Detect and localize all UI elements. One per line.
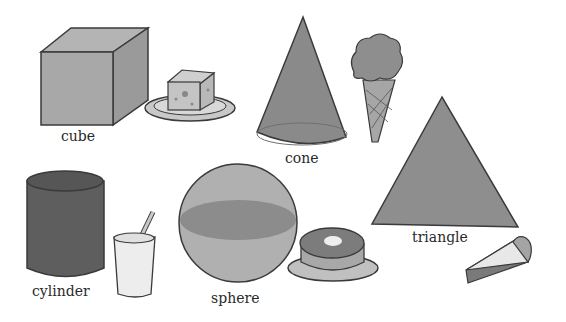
- triangle-label: triangle: [412, 229, 468, 245]
- illustration-svg: [0, 0, 566, 322]
- sphere-shape: [179, 164, 297, 282]
- cylinder-shape: [27, 171, 104, 277]
- ice-cream-icon: [351, 34, 402, 142]
- cone-label: cone: [285, 150, 319, 166]
- cylinder-label: cylinder: [32, 283, 90, 299]
- glass-straw-icon: [114, 212, 155, 297]
- pie-slice-icon: [466, 237, 531, 283]
- triangle-shape: [372, 97, 518, 227]
- sphere-label: sphere: [211, 290, 259, 306]
- cone-shape: [257, 17, 347, 145]
- cheese-plate-icon: [145, 70, 235, 121]
- shapes-illustration: cube cone cylinder sphere triangle: [0, 0, 566, 322]
- cube-label: cube: [61, 128, 95, 144]
- donut-plate-icon: [288, 228, 378, 281]
- cube-shape: [41, 28, 148, 125]
